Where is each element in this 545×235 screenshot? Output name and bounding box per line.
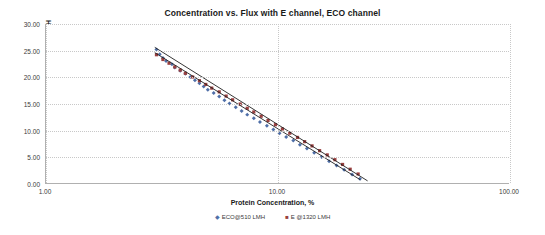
gridline-vertical bbox=[510, 24, 511, 183]
legend-marker-icon: ◆ bbox=[215, 213, 220, 220]
data-point bbox=[212, 91, 216, 95]
data-point bbox=[206, 88, 210, 92]
x-tick-label: 100.00 bbox=[487, 188, 531, 195]
series-1-points bbox=[154, 47, 361, 180]
chart-title: Concentration vs. Flux with E channel, E… bbox=[0, 8, 545, 18]
legend-label: E @1320 LMH bbox=[291, 214, 330, 220]
data-point bbox=[222, 98, 226, 102]
x-axis-label: Protein Concentration, % bbox=[0, 199, 545, 206]
data-point bbox=[258, 120, 262, 124]
data-point bbox=[284, 135, 288, 139]
data-point bbox=[217, 95, 221, 99]
data-point bbox=[240, 109, 244, 113]
y-tick-label: 30.00 bbox=[0, 21, 40, 28]
legend-marker-icon: ■ bbox=[285, 214, 289, 220]
x-tick-label: 1.00 bbox=[23, 188, 67, 195]
legend-label: ECO@510 LMH bbox=[222, 214, 265, 220]
legend-entry-1[interactable]: ◆ECO@510 LMH bbox=[215, 213, 265, 220]
y-tick-label: 0.00 bbox=[0, 181, 40, 188]
plot-area bbox=[45, 24, 509, 184]
chart-legend: ◆ECO@510 LMH■E @1320 LMH bbox=[0, 213, 545, 220]
y-tick-label: 25.00 bbox=[0, 47, 40, 54]
trendline-1 bbox=[155, 47, 368, 181]
y-tick-label: 15.00 bbox=[0, 101, 40, 108]
chart-container: Concentration vs. Flux with E channel, E… bbox=[0, 0, 545, 235]
legend-entry-2[interactable]: ■E @1320 LMH bbox=[285, 213, 330, 219]
x-tick-label: 10.00 bbox=[255, 188, 299, 195]
y-tick-label: 10.00 bbox=[0, 127, 40, 134]
data-point bbox=[252, 116, 256, 120]
trendline-2 bbox=[155, 53, 361, 180]
y-tick-label: 5.00 bbox=[0, 154, 40, 161]
data-point bbox=[234, 105, 238, 109]
data-point bbox=[265, 124, 269, 128]
y-tick-label: 20.00 bbox=[0, 74, 40, 81]
data-point bbox=[245, 113, 249, 117]
gridline-vertical bbox=[278, 24, 279, 183]
gridline-vertical bbox=[46, 24, 47, 183]
